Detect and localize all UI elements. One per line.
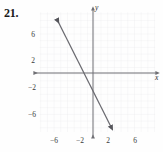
- grid-background: [40, 12, 156, 132]
- y-tick-neg2: −2: [24, 83, 40, 92]
- x-tick-neg2: −2: [72, 136, 88, 145]
- figure-container: 21. y x 6 2 −2 −6 −6 −2 2 6: [0, 0, 163, 152]
- y-tick-6: 6: [26, 30, 40, 39]
- x-tick-neg6: −6: [46, 136, 62, 145]
- x-tick-6: 6: [128, 136, 142, 145]
- y-tick-2: 2: [26, 56, 40, 65]
- coordinate-plane-graph: [0, 0, 163, 152]
- x-tick-2: 2: [101, 136, 115, 145]
- y-tick-neg6: −6: [24, 110, 40, 119]
- x-axis-label: x: [155, 73, 158, 82]
- y-axis-label: y: [95, 3, 98, 12]
